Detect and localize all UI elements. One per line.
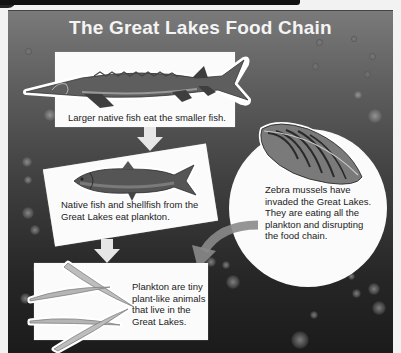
bubble-icon: [24, 176, 32, 184]
food-chain-panel: The Great Lakes Food Chain Larger native…: [8, 10, 393, 353]
bubble-icon: [368, 109, 382, 123]
bubble-icon: [352, 289, 361, 298]
bubble-icon: [368, 283, 380, 295]
bubble-icon: [30, 225, 40, 235]
bubble-icon: [226, 275, 240, 289]
sturgeon-icon: [22, 56, 252, 106]
bubble-icon: [364, 71, 371, 78]
header-bar: [0, 0, 300, 5]
plankton-icon: [24, 261, 144, 351]
plankton-caption: Plankton are tiny plant-like animals tha…: [132, 281, 205, 327]
fish-icon: [70, 161, 200, 201]
page-title: The Great Lakes Food Chain: [8, 17, 393, 39]
zebra-mussel-icon: [258, 119, 368, 189]
large-fish-caption: Larger native fish eat the smaller fish.: [68, 112, 226, 124]
bubble-icon: [354, 91, 362, 99]
arrow-down-icon: [137, 127, 163, 151]
arrow-down-icon: [94, 239, 120, 263]
bubble-icon: [372, 301, 386, 315]
native-fish-caption: Native fish and shellfish from the Great…: [61, 199, 198, 222]
bubble-icon: [291, 331, 309, 349]
bubble-icon: [369, 53, 376, 60]
zebra-mussel-caption: Zebra mussels have invaded the Great Lak…: [265, 184, 371, 242]
bubble-icon: [22, 207, 34, 219]
bubble-icon: [25, 48, 32, 55]
bubble-icon: [310, 311, 318, 319]
bubble-icon: [316, 39, 323, 46]
bubble-icon: [312, 63, 319, 70]
bubble-icon: [22, 157, 32, 167]
